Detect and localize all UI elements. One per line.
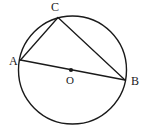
point-label-b: B	[131, 74, 139, 88]
center-point-dot	[69, 68, 73, 72]
point-label-c: C	[51, 0, 59, 14]
center-label-o: O	[66, 74, 74, 86]
chord-ac	[21, 18, 59, 61]
geometry-figure: A B C O	[0, 0, 143, 138]
geometry-canvas: A B C O	[0, 0, 143, 138]
chord-cb	[58, 18, 125, 81]
point-label-a: A	[9, 54, 18, 68]
